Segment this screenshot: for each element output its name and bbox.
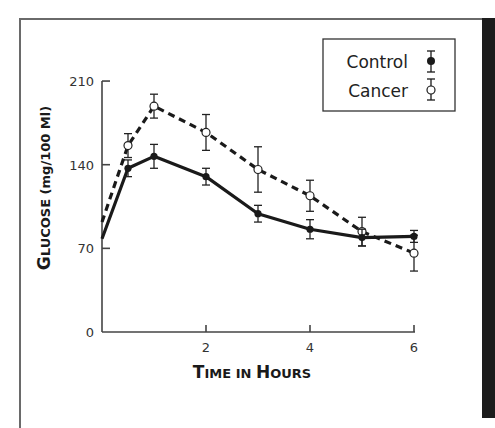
data-point-control <box>306 220 314 239</box>
data-point-cancer <box>306 180 314 211</box>
data-point-control <box>410 230 418 242</box>
axes: 070140210 246 <box>69 74 418 355</box>
x-tick-label: 4 <box>306 340 314 355</box>
glucose-chart: 070140210 246 TIME IN HOURS GLUCOSE (mg/… <box>0 0 495 428</box>
series-layer <box>102 94 418 271</box>
data-point-control <box>202 168 210 185</box>
y-ticks: 070140210 <box>69 74 110 340</box>
data-point-cancer <box>150 94 158 118</box>
legend: Control Cancer <box>323 39 455 111</box>
legend-label-cancer: Cancer <box>348 81 408 101</box>
y-tick-label: 140 <box>69 158 94 173</box>
data-point-control <box>150 144 158 168</box>
y-axis-title: GLUCOSE (mg/100 Ml) <box>34 106 54 270</box>
y-tick-label: 210 <box>69 74 94 89</box>
x-axis-title: TIME IN HOURS <box>193 362 311 382</box>
data-point-cancer <box>202 115 210 151</box>
legend-label-control: Control <box>347 52 408 72</box>
y-tick-label: 70 <box>77 241 94 256</box>
x-tick-label: 6 <box>410 340 418 355</box>
data-point-cancer <box>254 147 262 192</box>
x-ticks: 246 <box>202 325 418 355</box>
y-tick-label: 0 <box>86 325 94 340</box>
data-point-cancer <box>124 134 132 158</box>
x-tick-label: 2 <box>202 340 210 355</box>
data-point-control <box>254 205 262 222</box>
